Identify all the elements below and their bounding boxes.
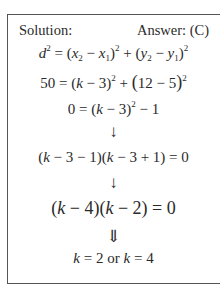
- step-substitute: 50 = (k − 3)2 + (12 − 5)2: [7, 72, 220, 93]
- step-simplify: 0 = (k − 3)2 − 1: [7, 99, 220, 118]
- down-arrow-icon: ↓: [7, 173, 220, 193]
- double-down-arrow-icon: ⇓: [7, 226, 220, 247]
- step-distance-formula: d2 = (x2 − x1)2 + (y2 − y1)2: [7, 43, 220, 63]
- step-factor: (k − 3 − 1)(k − 3 + 1) = 0: [7, 149, 220, 166]
- answer-label: Answer: (C): [137, 22, 209, 39]
- step-factored: (k − 4)(k − 2) = 0: [7, 198, 220, 219]
- step-result: k = 2 or k = 4: [7, 250, 220, 267]
- solution-label: Solution:: [19, 22, 72, 39]
- down-arrow-icon: ↓: [7, 122, 220, 142]
